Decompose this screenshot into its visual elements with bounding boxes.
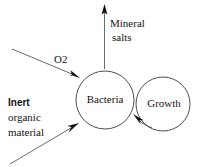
oxygen-flow-arrow [12,49,80,78]
inert-organic-material-label-line1: Inert [8,97,30,108]
mineral-salts-flow-arrow [102,4,108,69]
oxygen-label: O2 [54,53,67,65]
mineral-salts-label-line1: Mineral [110,17,145,29]
inert-organic-material-label-line3: material [8,126,44,138]
inert-organic-material-arrow-head [67,123,79,132]
inert-organic-material-label-line2: organic [8,111,41,123]
oxygen-arrow-head [69,70,80,78]
mineral-salts-label-line2: salts [112,31,132,43]
bacteria-node-label: Bacteria [87,93,124,105]
growth-node-label: Growth [147,97,181,109]
process-diagram: Bacteria Growth Mineral salts O2 Inert o… [0,0,200,167]
diagram-canvas: Bacteria Growth Mineral salts O2 Inert o… [0,0,200,167]
